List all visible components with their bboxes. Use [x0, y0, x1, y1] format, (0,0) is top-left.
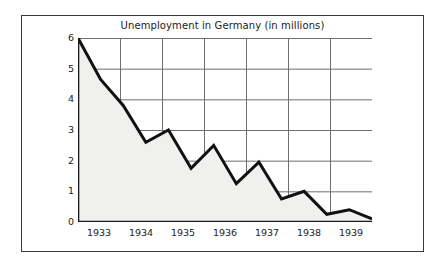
x-tick-label-1936: 1936	[204, 228, 246, 238]
x-axis-tick-labels: 1933193419351936193719381939	[78, 228, 372, 244]
chart-canvas	[78, 38, 372, 222]
figure: Unemployment in Germany (in millions) 01…	[0, 0, 444, 268]
x-tick-label-1939: 1939	[330, 228, 372, 238]
x-tick-label-1934: 1934	[120, 228, 162, 238]
y-tick-label-5: 5	[60, 64, 74, 74]
x-tick-label-1933: 1933	[78, 228, 120, 238]
plot-area	[78, 38, 372, 222]
x-tick-label-1937: 1937	[246, 228, 288, 238]
y-axis-tick-labels: 0123456	[58, 0, 74, 268]
y-tick-label-2: 2	[60, 156, 74, 166]
y-tick-label-0: 0	[60, 217, 74, 227]
y-tick-label-1: 1	[60, 186, 74, 196]
y-tick-label-4: 4	[60, 94, 74, 104]
chart-title: Unemployment in Germany (in millions)	[21, 20, 424, 31]
y-tick-label-6: 6	[60, 33, 74, 43]
x-tick-label-1935: 1935	[162, 228, 204, 238]
x-tick-label-1938: 1938	[288, 228, 330, 238]
y-tick-label-3: 3	[60, 125, 74, 135]
